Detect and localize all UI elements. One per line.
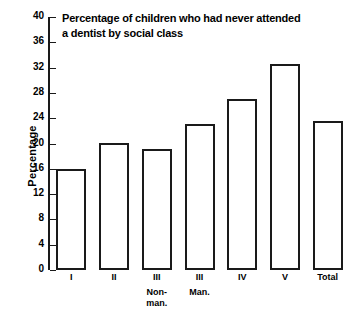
y-tick-label: 36: [33, 35, 44, 46]
x-tick-label: V: [264, 272, 307, 283]
bar-chart-figure: Percentage of children who had never att…: [0, 0, 359, 309]
bar-series: [50, 17, 349, 270]
y-tick-label: 0: [38, 263, 44, 274]
bar: [56, 169, 86, 270]
y-tick-label: 32: [33, 61, 44, 72]
y-tick-label: 16: [33, 162, 44, 173]
x-tick-label-text: II: [112, 272, 117, 282]
x-tick-label-text: IV: [238, 272, 247, 282]
y-tick-label: 28: [33, 86, 44, 97]
x-tick-label: IV: [221, 272, 264, 283]
y-tick-label: 4: [38, 238, 44, 249]
x-tick-label: Total: [306, 272, 349, 283]
x-tick-label: IIINon- man.: [135, 272, 178, 309]
x-tick-label: IIIMan.: [178, 272, 221, 298]
bar: [142, 149, 172, 270]
x-tick-sublabel: Man.: [178, 287, 221, 298]
y-tick-label: 12: [33, 187, 44, 198]
bar: [227, 99, 257, 270]
x-tick-label-text: III: [153, 272, 161, 282]
x-tick-label-text: Total: [317, 272, 338, 282]
bar: [313, 121, 343, 270]
y-tick-label: 20: [33, 137, 44, 148]
bar: [99, 143, 129, 270]
x-tick-label: I: [50, 272, 93, 283]
x-tick-label-text: I: [70, 272, 73, 282]
x-axis-labels: IIIIIINon- man.IIIMan.IVVTotal: [50, 272, 349, 309]
y-tick-label: 24: [33, 111, 44, 122]
plot-area: 4036322824201612840: [48, 17, 349, 270]
bar: [185, 124, 215, 270]
x-tick-label: II: [93, 272, 136, 283]
x-tick-sublabel: Non- man.: [135, 287, 178, 309]
bar: [270, 64, 300, 270]
y-tick-label: 40: [33, 10, 44, 21]
x-tick-label-text: V: [282, 272, 288, 282]
x-tick-label-text: III: [196, 272, 204, 282]
y-tick-label: 8: [38, 212, 44, 223]
y-tick-mark: [50, 270, 56, 271]
